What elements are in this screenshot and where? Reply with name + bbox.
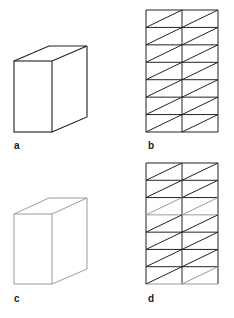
- grid-diagonal: [182, 45, 218, 62]
- panel-label-d: d: [148, 294, 154, 304]
- grid-diagonal: [182, 80, 218, 97]
- grid-diagonal: [182, 27, 218, 44]
- panel-b-grid: [146, 10, 218, 132]
- grid-diagonal: [146, 27, 182, 44]
- panel-c-cube: [14, 198, 87, 284]
- panel-label-b: b: [148, 141, 154, 151]
- panel-d-grid: [146, 163, 218, 284]
- grid-diagonal: [182, 10, 218, 27]
- cube-top-face: [14, 46, 87, 61]
- grid-diagonal: [182, 267, 218, 284]
- grid-diagonal: [182, 249, 218, 266]
- cube-front-face: [14, 61, 52, 132]
- grid-diagonal: [146, 267, 182, 284]
- grid-diagonal: [146, 80, 182, 97]
- grid-diagonal: [146, 163, 182, 180]
- panel-label-a: a: [14, 141, 20, 151]
- grid-diagonal: [182, 180, 218, 197]
- grid-diagonal: [146, 115, 182, 132]
- grid-diagonal: [182, 198, 218, 215]
- grid-diagonal: [182, 62, 218, 79]
- grid-diagonal: [146, 249, 182, 266]
- grid-diagonal: [146, 10, 182, 27]
- grid-diagonal: [182, 232, 218, 249]
- cube-front-face: [14, 214, 52, 284]
- grid-diagonal: [182, 97, 218, 114]
- grid-diagonal: [182, 115, 218, 132]
- cube-top-face: [14, 198, 87, 214]
- grid-diagonal: [146, 45, 182, 62]
- grid-diagonal: [146, 198, 182, 215]
- grid-diagonal: [146, 215, 182, 232]
- grid-diagonal: [182, 215, 218, 232]
- grid-diagonal: [182, 163, 218, 180]
- panel-a-cube: [14, 46, 87, 132]
- figure-canvas: [0, 0, 234, 318]
- grid-diagonal: [146, 97, 182, 114]
- figure: a b c d: [0, 0, 234, 318]
- grid-diagonal: [146, 180, 182, 197]
- grid-diagonal: [146, 62, 182, 79]
- grid-diagonal: [146, 232, 182, 249]
- cube-side-face: [52, 198, 87, 284]
- panel-label-c: c: [14, 294, 20, 304]
